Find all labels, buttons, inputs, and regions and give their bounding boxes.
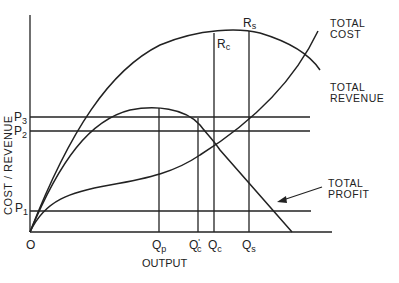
p2-label: P2	[14, 124, 27, 140]
total-profit-label-line2: PROFIT	[328, 188, 370, 200]
total-profit-curve	[30, 108, 292, 232]
origin-label: O	[26, 238, 35, 252]
qp-label: Qp	[152, 238, 166, 254]
rs-label: Rs	[243, 16, 257, 31]
rc-label: Rc	[217, 37, 231, 52]
qs-label: Qs	[242, 238, 256, 254]
total-cost-label-line2: COST	[330, 28, 361, 40]
profit-maximization-diagram: COST / REVENUE P3 P2 P1 O Qp Q'c Qc Qs O…	[0, 0, 399, 283]
p1-label: P1	[15, 201, 28, 217]
total-revenue-label-line2: REVENUE	[330, 92, 384, 104]
arrow-head-icon	[277, 196, 287, 203]
y-axis-label: COST / REVENUE	[2, 115, 14, 215]
qc-prime-label: Q'c	[189, 237, 202, 254]
x-axis-label: OUTPUT	[142, 257, 188, 269]
qc-label: Qc	[208, 238, 222, 254]
